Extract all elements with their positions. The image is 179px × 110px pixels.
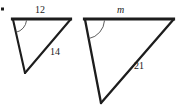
side-label-hypotenuse-21: 21: [134, 61, 144, 71]
large-triangle-angle-arc: [89, 21, 105, 39]
geometry-figure: 12 14 m 21: [0, 0, 179, 110]
small-triangle-angle-arc: [16, 21, 27, 33]
large-triangle-left-side: [85, 20, 101, 104]
small-triangle-right-side: [25, 20, 71, 74]
small-triangle: [13, 19, 71, 73]
bullet-marker: [1, 8, 4, 11]
side-label-top-12: 12: [35, 5, 45, 15]
side-label-hypotenuse-14: 14: [50, 47, 60, 57]
triangles-drawing: [0, 0, 179, 110]
side-label-top-m: m: [117, 5, 124, 15]
large-triangle: [85, 19, 174, 103]
